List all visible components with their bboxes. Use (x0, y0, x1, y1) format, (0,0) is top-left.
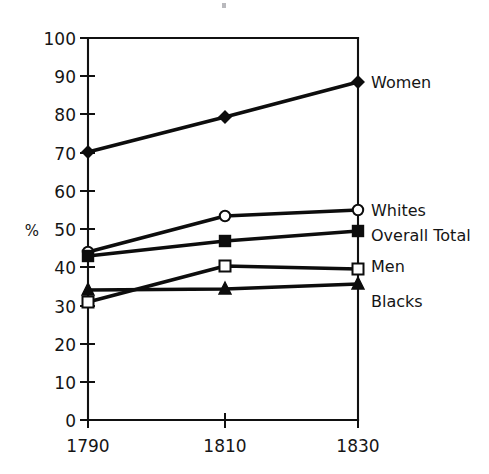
x-tick-labels: 1790 1810 1830 (66, 436, 379, 456)
x-tick-label: 1830 (336, 436, 379, 456)
data-point-marker (352, 76, 364, 88)
data-point-marker (219, 111, 231, 123)
y-tick-label: 70 (54, 144, 76, 164)
y-tick-label: 20 (54, 335, 76, 355)
line-chart-canvas: 100 90 80 70 60 50 40 30 20 10 0 % 1790 … (0, 0, 489, 474)
data-point-marker (220, 261, 231, 272)
series-label-whites: Whites (371, 201, 426, 220)
data-point-marker (353, 226, 364, 237)
y-tick-label: 90 (54, 67, 76, 87)
series-label-women: Women (371, 73, 431, 92)
series-label-blacks: Blacks (371, 292, 423, 311)
y-tick-label: 30 (54, 297, 76, 317)
data-point-marker (353, 205, 363, 215)
series-label-men: Men (371, 257, 405, 276)
y-tick-labels: 100 90 80 70 60 50 40 30 20 10 0 (44, 29, 76, 431)
y-axis-title: % (25, 222, 39, 240)
y-tick-label: 60 (54, 182, 76, 202)
y-tick-label: 0 (65, 411, 76, 431)
chart-figure: 100 90 80 70 60 50 40 30 20 10 0 % 1790 … (0, 0, 489, 474)
data-point-marker (83, 251, 94, 262)
scan-artifact (222, 3, 226, 8)
y-tick-label: 50 (54, 220, 76, 240)
y-tick-label: 40 (54, 258, 76, 278)
y-tick-label: 100 (44, 29, 76, 49)
series-whites (83, 205, 363, 257)
data-point-marker (83, 297, 94, 308)
x-tick-label: 1790 (66, 436, 109, 456)
data-point-marker (353, 264, 364, 275)
x-tick-label: 1810 (203, 436, 246, 456)
data-point-marker (220, 236, 231, 247)
y-tick-label: 10 (54, 373, 76, 393)
y-tick-label: 80 (54, 105, 76, 125)
series-women (82, 76, 364, 158)
data-point-marker (220, 211, 230, 221)
series-labels-group: Women Whites Overall Total Men Blacks (371, 73, 471, 311)
plot-frame (88, 38, 358, 420)
series-label-overall-total: Overall Total (371, 226, 471, 245)
data-point-marker (82, 146, 94, 158)
